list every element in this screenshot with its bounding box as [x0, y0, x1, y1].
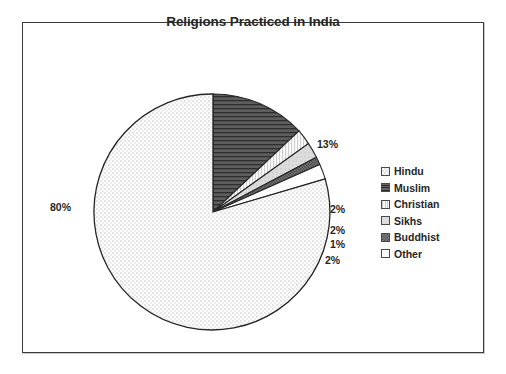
legend-item-buddhist[interactable]: Buddhist	[381, 229, 467, 246]
chart-title: Religions Practiced in India	[0, 14, 506, 29]
legend-label-buddhist: Buddhist	[394, 231, 440, 243]
pie-label-buddhist: 1%	[330, 238, 345, 250]
legend-swatch-hindu	[381, 167, 390, 176]
legend-item-muslim[interactable]: Muslim	[381, 180, 467, 197]
legend-item-other[interactable]: Other	[381, 246, 467, 263]
legend-label-sikhs: Sikhs	[394, 215, 422, 227]
legend-swatch-other	[381, 249, 390, 258]
legend-swatch-christian	[381, 200, 390, 209]
pie-label-other: 2%	[325, 254, 340, 266]
pie-label-hindu: 80%	[50, 201, 71, 213]
legend-label-other: Other	[394, 248, 422, 260]
legend-swatch-sikhs	[381, 216, 390, 225]
legend-swatch-buddhist	[381, 233, 390, 242]
pie-label-muslim: 13%	[317, 138, 338, 150]
pie-label-sikhs: 2%	[330, 224, 345, 236]
pie-label-christian: 2%	[330, 203, 345, 215]
legend-item-sikhs[interactable]: Sikhs	[381, 213, 467, 230]
legend-label-christian: Christian	[394, 198, 440, 210]
legend-label-hindu: Hindu	[394, 165, 424, 177]
legend-item-christian[interactable]: Christian	[381, 196, 467, 213]
legend-label-muslim: Muslim	[394, 182, 430, 194]
legend-item-hindu[interactable]: Hindu	[381, 163, 467, 180]
legend-swatch-muslim	[381, 183, 390, 192]
chart-legend: Hindu Muslim Christian Sikhs Buddhist Ot…	[381, 163, 467, 262]
